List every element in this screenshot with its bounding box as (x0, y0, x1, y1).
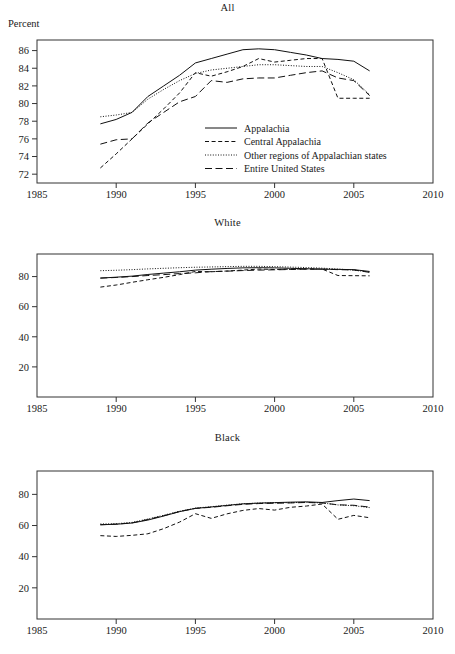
x-tick-label: 2005 (343, 189, 364, 200)
x-tick-label: 1995 (185, 189, 206, 200)
chart-panel-white: White 19851990199520002005201020406080 (0, 215, 455, 430)
y-tick-label: 80 (19, 271, 30, 282)
x-tick-label: 1990 (106, 403, 127, 414)
x-tick-label: 2010 (423, 403, 444, 414)
x-tick-label: 2010 (423, 189, 444, 200)
y-tick-label: 72 (19, 169, 30, 180)
y-tick-label: 20 (19, 583, 30, 594)
x-tick-label: 2005 (343, 403, 364, 414)
figure-multipanel-chart: All Percent 1985199019952000200520107274… (0, 0, 455, 654)
y-tick-label: 86 (19, 45, 30, 56)
plot-frame (37, 471, 433, 619)
y-tick-label: 80 (19, 489, 30, 500)
chart-panel-all: All Percent 1985199019952000200520107274… (0, 0, 455, 215)
y-tick-label: 76 (19, 134, 30, 145)
x-tick-label: 1985 (27, 625, 48, 636)
legend-label-entire-united-states: Entire United States (244, 163, 325, 174)
plot-frame (37, 40, 433, 183)
y-tick-label: 20 (19, 362, 30, 373)
x-tick-label: 1995 (185, 625, 206, 636)
x-tick-label: 1995 (185, 403, 206, 414)
plot-frame (37, 254, 433, 397)
y-tick-label: 40 (19, 551, 30, 562)
x-tick-label: 2000 (264, 625, 285, 636)
y-tick-label: 78 (19, 116, 30, 127)
y-tick-label: 60 (19, 520, 30, 531)
series-line-central-appalachia (100, 269, 369, 287)
x-tick-label: 2000 (264, 403, 285, 414)
y-tick-label: 84 (19, 63, 30, 74)
x-tick-label: 1990 (106, 625, 127, 636)
x-tick-label: 2010 (423, 625, 444, 636)
series-line-entire-united-states (100, 71, 369, 144)
y-tick-label: 40 (19, 332, 30, 343)
x-tick-label: 1990 (106, 189, 127, 200)
series-line-other-regions-of-appalachian-states (100, 502, 369, 524)
legend-label-appalachia: Appalachia (244, 123, 290, 134)
series-line-appalachia (100, 268, 369, 278)
y-tick-label: 80 (19, 98, 30, 109)
chart-panel-black: Black 19851990199520002005201020406080 (0, 430, 455, 654)
x-tick-label: 1985 (27, 403, 48, 414)
y-tick-label: 74 (19, 151, 30, 162)
y-tick-label: 82 (19, 81, 30, 92)
legend-label-central-appalachia: Central Appalachia (244, 136, 321, 147)
x-tick-label: 1985 (27, 189, 48, 200)
legend-label-other-regions-of-appalachian-states: Other regions of Appalachian states (244, 150, 387, 161)
plot-area-black: 19851990199520002005201020406080 (0, 430, 455, 654)
plot-area-all: 1985199019952000200520107274767880828486… (0, 0, 455, 215)
y-tick-label: 60 (19, 301, 30, 312)
x-tick-label: 2000 (264, 189, 285, 200)
series-line-appalachia (100, 49, 369, 124)
series-line-other-regions-of-appalachian-states (100, 65, 369, 117)
plot-area-white: 19851990199520002005201020406080 (0, 215, 455, 430)
series-line-central-appalachia (100, 504, 369, 536)
x-tick-label: 2005 (343, 625, 364, 636)
